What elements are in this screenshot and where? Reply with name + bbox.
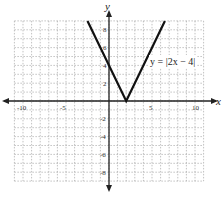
svg-text:4: 4 xyxy=(103,62,107,70)
svg-text:-10: -10 xyxy=(17,104,27,112)
y-axis-down-arrow-icon xyxy=(106,185,112,192)
svg-text:10: 10 xyxy=(192,104,200,112)
svg-text:-6: -6 xyxy=(100,151,106,159)
x-axis-left-arrow-icon xyxy=(2,98,9,104)
svg-text:8: 8 xyxy=(103,26,107,34)
x-axis-label: x xyxy=(215,95,221,107)
y-axis-label: y xyxy=(104,0,110,12)
svg-text:-8: -8 xyxy=(100,169,106,177)
svg-text:2: 2 xyxy=(103,80,107,88)
equation-label: y = |2x − 4| xyxy=(150,56,195,67)
svg-text:-2: -2 xyxy=(100,115,106,123)
graph: -10-5510-8-6-4-22468 y x y = |2x − 4| xyxy=(0,0,224,197)
svg-text:5: 5 xyxy=(149,104,153,112)
svg-text:6: 6 xyxy=(103,44,107,52)
svg-text:-5: -5 xyxy=(60,104,66,112)
axes xyxy=(2,10,218,192)
svg-text:-4: -4 xyxy=(100,133,106,141)
